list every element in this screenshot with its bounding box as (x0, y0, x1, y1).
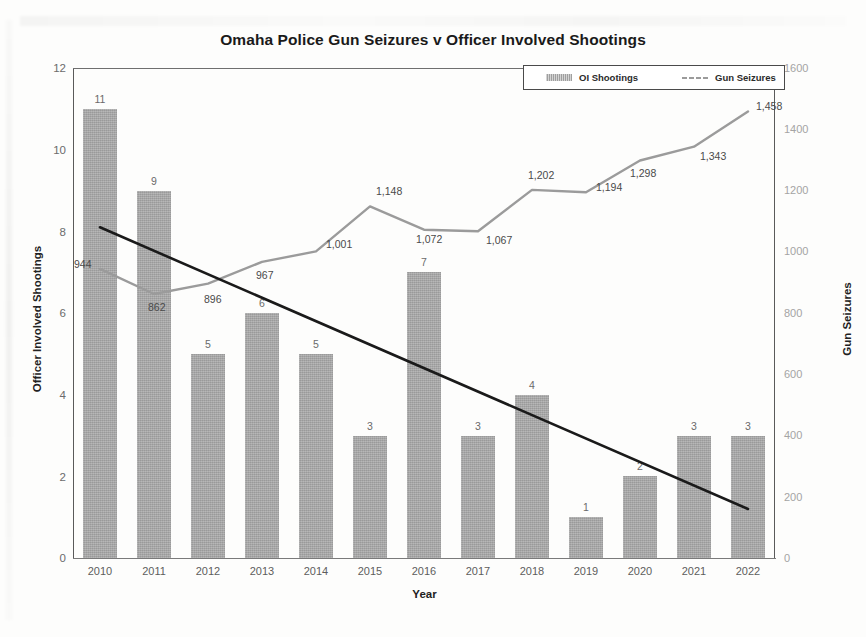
x-tick-2017: 2017 (448, 565, 508, 577)
bar-label-2019: 1 (566, 501, 606, 513)
x-axis-line (73, 558, 776, 559)
bar-2011[interactable] (137, 191, 171, 559)
bar-2014[interactable] (299, 354, 333, 558)
bar-2021[interactable] (677, 436, 711, 559)
line-label-2014: 1,001 (326, 238, 352, 250)
chart-title: Omaha Police Gun Seizures v Officer Invo… (0, 31, 866, 49)
line-label-2012: 896 (204, 293, 222, 305)
scan-artifact-left (6, 20, 12, 620)
y-tick-right-1000: 1000 (784, 245, 824, 257)
line-swatch-icon (682, 74, 708, 81)
y-axis-right-ticks: 1600 1400 1200 1000 800 600 400 200 0 (784, 0, 828, 637)
y-tick-left-0: 0 (26, 552, 66, 564)
bar-label-2013: 6 (242, 297, 282, 309)
bar-label-2010: 11 (80, 93, 120, 105)
y-tick-right-200: 200 (784, 491, 824, 503)
line-label-2013: 967 (256, 269, 274, 281)
x-tick-2013: 2013 (232, 565, 292, 577)
x-axis-title: Year (73, 588, 776, 600)
line-label-2018: 1,202 (528, 169, 554, 181)
line-label-2022: 1,458 (756, 100, 782, 112)
bar-2013[interactable] (245, 313, 279, 558)
bar-label-2014: 5 (296, 338, 336, 350)
line-label-2021: 1,343 (700, 150, 726, 162)
bar-label-2021: 3 (674, 420, 714, 432)
bar-2017[interactable] (461, 436, 495, 559)
bar-label-2022: 3 (728, 420, 768, 432)
line-label-2016: 1,072 (416, 233, 442, 245)
legend-label-gun-seizures: Gun Seizures (715, 72, 776, 83)
bar-label-2015: 3 (350, 420, 390, 432)
bar-label-2017: 3 (458, 420, 498, 432)
bar-series-oi-shootings: 11956537341233 (73, 68, 775, 558)
line-label-2019: 1,194 (596, 181, 622, 193)
y-tick-right-400: 400 (784, 429, 824, 441)
x-tick-2020: 2020 (610, 565, 670, 577)
bar-label-2016: 7 (404, 256, 444, 268)
x-tick-2019: 2019 (556, 565, 616, 577)
x-tick-2016: 2016 (394, 565, 454, 577)
bar-2018[interactable] (515, 395, 549, 558)
bar-2019[interactable] (569, 517, 603, 558)
x-tick-2014: 2014 (286, 565, 346, 577)
bar-2015[interactable] (353, 436, 387, 559)
line-label-2015: 1,148 (376, 185, 402, 197)
x-tick-2010: 2010 (70, 565, 130, 577)
y-axis-right-title: Gun Seizures (841, 239, 853, 399)
chart-legend[interactable]: OI Shootings Gun Seizures (523, 65, 785, 90)
scan-artifact-top (20, 16, 846, 26)
line-label-2010: 944 (74, 258, 92, 270)
bar-label-2012: 5 (188, 338, 228, 350)
x-tick-2018: 2018 (502, 565, 562, 577)
bar-2022[interactable] (731, 436, 765, 559)
x-tick-2011: 2011 (124, 565, 184, 577)
bar-2010[interactable] (83, 109, 117, 558)
x-tick-2012: 2012 (178, 565, 238, 577)
bar-swatch-icon (546, 74, 572, 81)
bar-label-2011: 9 (134, 175, 174, 187)
y-tick-right-1400: 1400 (784, 123, 824, 135)
bar-2016[interactable] (407, 272, 441, 558)
x-tick-2022: 2022 (718, 565, 778, 577)
y-tick-left-10: 10 (26, 144, 66, 156)
y-tick-right-0: 0 (784, 552, 824, 564)
x-tick-2021: 2021 (664, 565, 724, 577)
bar-label-2020: 2 (620, 460, 660, 472)
chart-page: Omaha Police Gun Seizures v Officer Invo… (0, 0, 866, 637)
line-label-2011: 862 (148, 301, 166, 313)
y-tick-right-600: 600 (784, 368, 824, 380)
bar-2012[interactable] (191, 354, 225, 558)
legend-item-gun-seizures[interactable]: Gun Seizures (682, 72, 776, 83)
bar-2020[interactable] (623, 476, 657, 558)
y-tick-right-1600: 1600 (784, 62, 824, 74)
x-tick-2015: 2015 (340, 565, 400, 577)
line-label-2020: 1,298 (630, 167, 656, 179)
y-tick-right-800: 800 (784, 307, 824, 319)
y-axis-left-ticks: 12 10 8 6 4 2 0 (22, 0, 66, 637)
y-tick-left-2: 2 (26, 471, 66, 483)
line-label-2017: 1,067 (486, 234, 512, 246)
legend-label-oi-shootings: OI Shootings (579, 72, 638, 83)
bar-label-2018: 4 (512, 379, 552, 391)
y-axis-left-title: Officer Involved Shootings (31, 209, 43, 429)
legend-item-oi-shootings[interactable]: OI Shootings (546, 72, 638, 83)
y-tick-right-1200: 1200 (784, 184, 824, 196)
y-tick-left-12: 12 (26, 62, 66, 74)
